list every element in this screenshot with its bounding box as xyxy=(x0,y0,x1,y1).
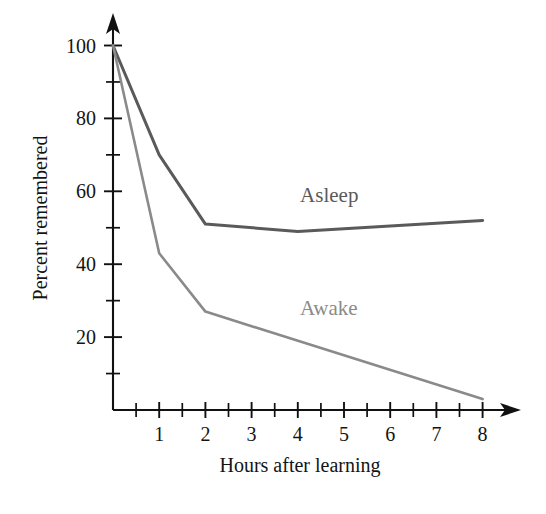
x-tick-label: 8 xyxy=(478,423,488,445)
x-tick-label: 6 xyxy=(385,423,395,445)
x-tick-label: 1 xyxy=(154,423,164,445)
axes-group xyxy=(106,13,521,417)
x-tick-label: 5 xyxy=(339,423,349,445)
x-axis-title: Hours after learning xyxy=(219,454,380,477)
series-label-awake: Awake xyxy=(300,296,358,320)
x-tick-label: 7 xyxy=(431,423,441,445)
series-label-asleep: Asleep xyxy=(300,183,358,207)
x-tick-label: 3 xyxy=(247,423,257,445)
y-tick-label: 100 xyxy=(66,35,96,57)
x-tick-label: 4 xyxy=(293,423,303,445)
y-tick-label: 20 xyxy=(76,326,96,348)
memory-retention-line-chart: 20406080100 12345678 AsleepAwake Percent… xyxy=(0,0,546,514)
data-series-group xyxy=(113,46,483,400)
chart-container: 20406080100 12345678 AsleepAwake Percent… xyxy=(0,0,546,514)
x-axis-tick-labels: 12345678 xyxy=(154,423,487,445)
y-axis-tick-labels: 20406080100 xyxy=(66,35,96,349)
y-axis-title: Percent remembered xyxy=(29,136,51,301)
y-tick-label: 80 xyxy=(76,107,96,129)
y-tick-label: 60 xyxy=(76,180,96,202)
series-inline-labels: AsleepAwake xyxy=(300,183,358,320)
x-tick-label: 2 xyxy=(200,423,210,445)
y-tick-label: 40 xyxy=(76,253,96,275)
series-line-asleep xyxy=(113,46,483,232)
